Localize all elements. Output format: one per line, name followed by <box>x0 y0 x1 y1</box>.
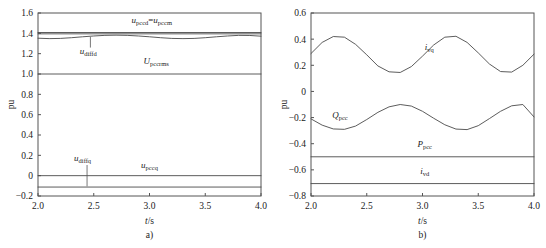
y-tick-label: −0.2 <box>16 191 33 201</box>
y-tick-label: 0.6 <box>294 8 306 18</box>
y-tick-label: 0.2 <box>21 151 33 161</box>
y-tick-label: 0 <box>28 171 33 181</box>
y-tick-label: −0.4 <box>289 139 306 149</box>
x-axis-title: t/s <box>418 216 427 226</box>
y-axis-title: pu <box>6 100 16 110</box>
y-tick-label: 0.4 <box>21 130 33 140</box>
y-tick-label: −0.6 <box>289 165 306 175</box>
y-tick-label: 1.2 <box>21 49 33 59</box>
x-axis-title: t/s <box>145 216 154 226</box>
y-tick-label: 0.2 <box>294 61 306 71</box>
curve-label: udiffq <box>74 153 92 164</box>
x-tick-label: 4.0 <box>528 201 540 211</box>
panel-caption: a) <box>146 230 153 241</box>
chart-panel-a: −0.200.20.40.60.81.01.21.41.62.02.53.03.… <box>0 0 273 248</box>
chart-svg-a: −0.200.20.40.60.81.01.21.41.62.02.53.03.… <box>0 0 273 248</box>
y-tick-label: −0.2 <box>289 113 306 123</box>
x-tick-label: 3.5 <box>199 201 211 211</box>
x-tick-label: 4.0 <box>255 201 267 211</box>
curve-label: Qpcc <box>332 110 348 121</box>
x-tick-label: 3.0 <box>144 201 156 211</box>
curve-label: udiffd <box>80 46 98 57</box>
y-tick-label: 0.8 <box>21 90 33 100</box>
panel-caption: b) <box>419 230 427 241</box>
y-tick-label: 1.4 <box>21 29 33 39</box>
plot-area-b: −0.8−0.6−0.4−0.200.20.40.62.02.53.03.54.… <box>279 8 540 241</box>
x-tick-label: 3.5 <box>472 201 484 211</box>
y-tick-label: 1.6 <box>21 8 33 18</box>
y-tick-label: 0.4 <box>294 35 306 45</box>
series-line <box>38 35 261 38</box>
curve-label: Upccrms <box>144 56 170 67</box>
curve-label: ivd <box>420 166 430 177</box>
x-tick-label: 2.0 <box>32 201 44 211</box>
chart-svg-b: −0.8−0.6−0.4−0.200.20.40.62.02.53.03.54.… <box>273 0 546 248</box>
x-tick-label: 3.0 <box>417 201 429 211</box>
y-tick-label: −0.8 <box>289 191 306 201</box>
x-tick-label: 2.0 <box>305 201 317 211</box>
x-tick-label: 2.5 <box>361 201 373 211</box>
curve-label: upccq <box>141 160 159 171</box>
chart-panel-b: −0.8−0.6−0.4−0.200.20.40.62.02.53.03.54.… <box>273 0 546 248</box>
curve-label: ivq <box>425 42 435 53</box>
figure-container: −0.200.20.40.60.81.01.21.41.62.02.53.03.… <box>0 0 546 248</box>
y-tick-label: 0.6 <box>21 110 33 120</box>
x-tick-label: 2.5 <box>88 201 100 211</box>
curve-label: upccd=upccm <box>132 15 172 26</box>
y-axis-title: pu <box>279 100 289 110</box>
series-line <box>311 36 534 72</box>
curve-label: Ppcc <box>416 139 432 150</box>
y-tick-label: 1.0 <box>21 69 33 79</box>
y-tick-label: 0 <box>301 87 306 97</box>
plot-area-a: −0.200.20.40.60.81.01.21.41.62.02.53.03.… <box>6 8 267 241</box>
